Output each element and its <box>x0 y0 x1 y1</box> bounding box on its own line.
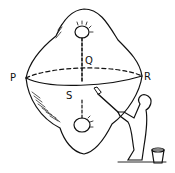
label-s: S <box>66 91 72 101</box>
label-p: P <box>10 73 16 83</box>
equator-front <box>26 76 142 85</box>
upper-hole <box>75 26 89 38</box>
label-q: Q <box>85 56 93 66</box>
painter <box>118 95 151 160</box>
surface-diagram <box>0 0 175 173</box>
brush <box>98 94 118 112</box>
equator-back <box>26 68 142 78</box>
label-r: R <box>144 72 151 82</box>
lower-hole <box>74 118 90 132</box>
